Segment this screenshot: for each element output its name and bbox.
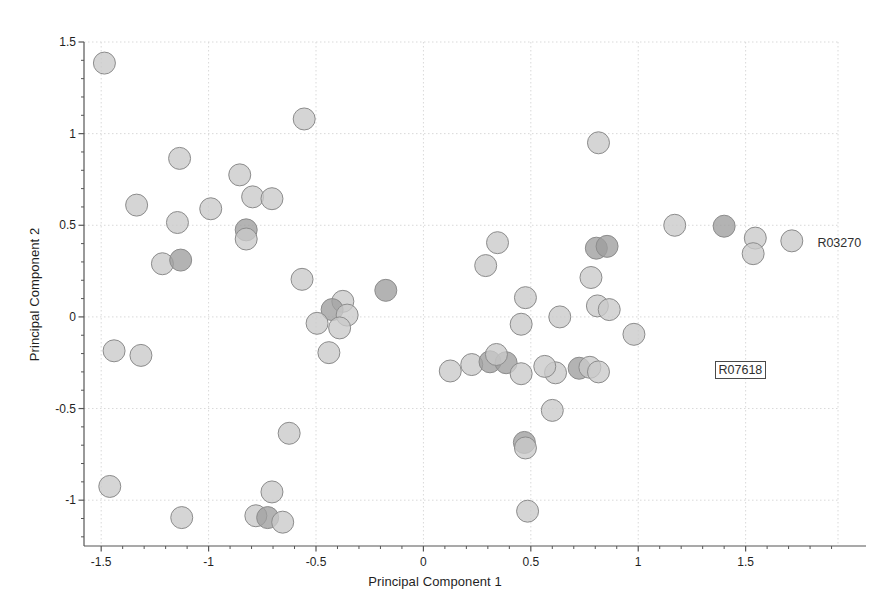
- point-annotation-r07618: R07618: [715, 361, 767, 379]
- x-tick-label: -0.5: [306, 555, 327, 569]
- scatter-point: [487, 232, 509, 254]
- scatter-point: [200, 198, 222, 220]
- scatter-point: [664, 214, 686, 236]
- scatter-point: [549, 306, 571, 328]
- scatter-point: [93, 52, 115, 74]
- scatter-point: [587, 361, 609, 383]
- scatter-point: [375, 279, 397, 301]
- x-tick-label: -1: [203, 555, 214, 569]
- y-tick-label: 0.5: [40, 218, 76, 232]
- scatter-point: [623, 323, 645, 345]
- y-tick-label: 1.5: [40, 35, 76, 49]
- scatter-point: [291, 268, 313, 290]
- x-tick-label: 0.5: [522, 555, 539, 569]
- x-tick-label: 1: [635, 555, 642, 569]
- scatter-point: [781, 230, 803, 252]
- scatter-point: [580, 267, 602, 289]
- axis-ticks: [79, 42, 832, 552]
- scatter-point: [514, 437, 536, 459]
- y-tick-label: -1: [40, 493, 76, 507]
- plot-frame: [84, 42, 866, 546]
- scatter-point: [261, 188, 283, 210]
- scatter-point: [272, 511, 294, 533]
- grid-lines: [84, 42, 838, 546]
- scatter-point: [171, 507, 193, 529]
- scatter-point: [329, 317, 351, 339]
- scatter-point: [541, 399, 563, 421]
- scatter-point: [485, 343, 507, 365]
- scatter-point: [126, 194, 148, 216]
- y-axis-title: Principal Component 2: [27, 165, 42, 425]
- scatter-point: [517, 500, 539, 522]
- scatter-point: [318, 342, 340, 364]
- x-tick-label: 0: [420, 555, 427, 569]
- scatter-point: [229, 164, 251, 186]
- scatter-point: [510, 363, 532, 385]
- scatter-point: [713, 215, 735, 237]
- y-tick-label: 1: [40, 127, 76, 141]
- scatter-plot-figure: -1.5-1-0.500.511.5 -1-0.500.511.5 Princi…: [0, 0, 870, 615]
- scatter-point: [596, 235, 618, 257]
- scatter-point: [130, 344, 152, 366]
- scatter-point: [514, 287, 536, 309]
- scatter-point: [103, 340, 125, 362]
- point-annotation-r03270: R03270: [814, 235, 864, 251]
- x-tick-label: 1.5: [737, 555, 754, 569]
- y-tick-label: -0.5: [40, 402, 76, 416]
- scatter-point: [235, 228, 257, 250]
- scatter-point: [439, 360, 461, 382]
- x-axis-title: Principal Component 1: [0, 574, 870, 589]
- scatter-point: [534, 355, 556, 377]
- scatter-point: [587, 132, 609, 154]
- scatter-point: [742, 243, 764, 265]
- x-tick-label: -1.5: [91, 555, 112, 569]
- scatter-point: [169, 147, 191, 169]
- scatter-point: [510, 313, 532, 335]
- scatter-point: [261, 481, 283, 503]
- scatter-point: [475, 255, 497, 277]
- data-points: [93, 52, 802, 533]
- plot-canvas: [0, 0, 870, 615]
- scatter-point: [170, 249, 192, 271]
- scatter-point: [306, 312, 328, 334]
- scatter-point: [598, 299, 620, 321]
- y-tick-label: 0: [40, 310, 76, 324]
- scatter-point: [166, 212, 188, 234]
- scatter-point: [278, 422, 300, 444]
- scatter-point: [99, 475, 121, 497]
- scatter-point: [293, 108, 315, 130]
- scatter-point: [242, 186, 264, 208]
